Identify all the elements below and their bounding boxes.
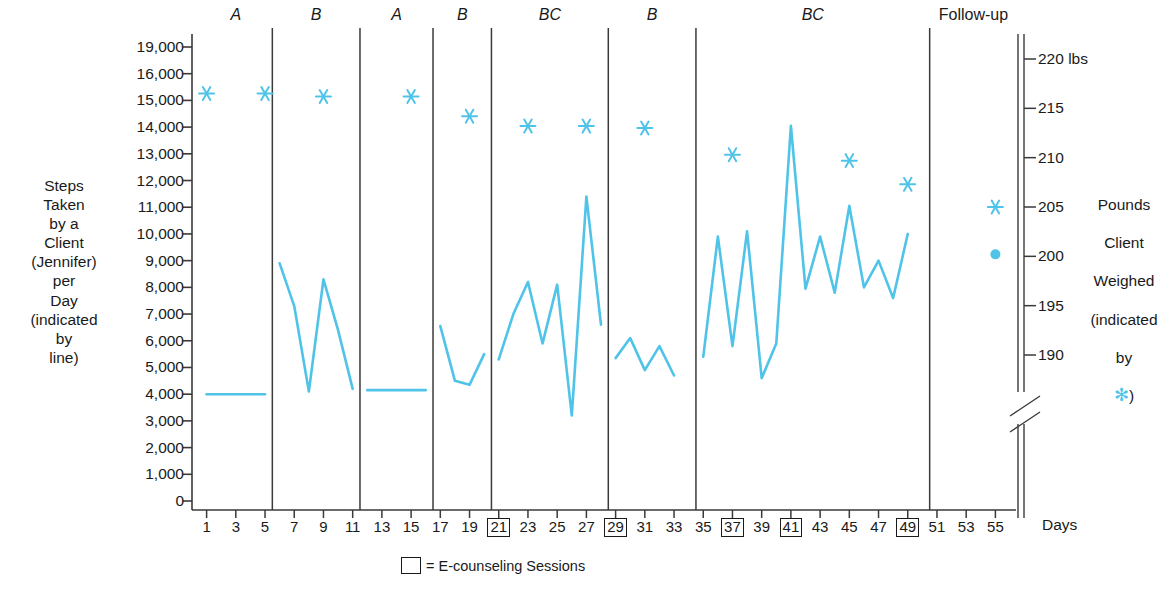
y2-axis-tick-label: 215 [1038,99,1064,117]
y-axis-tick-label: 11,000 [100,198,184,216]
x-axis-tick-label-ecounseling: 37 [716,518,748,537]
phase-label: Follow-up [913,6,1033,24]
phase-label: B [592,6,712,24]
right-axis-title-line4: (indicated [1090,311,1157,328]
x-axis-tick-label: 51 [921,518,953,535]
right-axis-title-close: ) [1129,387,1134,404]
chart-figure: Steps Taken by a Client (Jennifer) per D… [0,0,1176,591]
phase-label: BC [753,6,873,24]
ecounseling-session-marker: 49 [896,518,919,537]
y-axis-tick-label: 14,000 [100,118,184,136]
x-axis-name: Days [1042,516,1077,534]
steps-line-series [207,126,908,416]
ecounseling-session-marker: 37 [721,518,744,537]
y-axis-tick-label: 10,000 [100,225,184,243]
x-axis-tick-label: 45 [833,518,865,535]
x-axis-tick-label: 11 [337,518,369,535]
right-axis-title-line1: Pounds [1098,196,1151,213]
x-axis-tick-label: 1 [191,518,223,535]
asterisk-icon: ✻ [1114,385,1129,405]
y-axis-tick-label: 5,000 [100,358,184,376]
x-axis-tick-label-ecounseling: 21 [483,518,515,537]
y-axis-tick-label: 9,000 [100,252,184,270]
x-axis-tick-label: 7 [278,518,310,535]
ecounseling-box-icon [401,557,421,574]
y-axis-tick-label: 1,000 [100,465,184,483]
y2-axis-tick-label: 190 [1038,346,1064,364]
y2-axis-tick-label: 195 [1038,297,1064,315]
right-axis-title-line3: Weighed [1094,272,1155,289]
x-axis-tick-label-ecounseling: 41 [775,518,807,537]
y-axis-tick-label: 0 [100,492,184,510]
y-axis-tick-label: 16,000 [100,65,184,83]
phase-divider-lines [272,28,929,510]
ecounseling-session-marker: 41 [780,518,803,537]
x-axis-tick-label: 55 [979,518,1011,535]
weight-marker-series [199,87,1003,259]
y-axis-tick-label: 6,000 [100,332,184,350]
y-axis-tick-label: 19,000 [100,38,184,56]
y-axis-tick-label: 12,000 [100,172,184,190]
y-axis-tick-label: 13,000 [100,145,184,163]
x-axis-tick-label: 43 [804,518,836,535]
y-axis-tick-label: 3,000 [100,412,184,430]
x-axis-tick-label: 31 [629,518,661,535]
y2-axis-tick-label: 205 [1038,198,1064,216]
y2-axis-tick-label: 200 [1038,247,1064,265]
x-axis-tick-label: 39 [746,518,778,535]
x-axis-tick-label: 5 [249,518,281,535]
y2-axis-tick-label: 220 lbs [1038,50,1088,68]
x-axis-tick-label: 47 [863,518,895,535]
right-axis-title: Pounds Client Weighed (indicated by ✻) [1072,176,1176,405]
x-axis-tick-label: 15 [395,518,427,535]
x-axis-tick-label: 35 [687,518,719,535]
y-axis-tick-label: 2,000 [100,439,184,457]
y2-axis-tick-label: 210 [1038,149,1064,167]
x-axis-tick-label: 27 [570,518,602,535]
x-axis-tick-label: 3 [220,518,252,535]
y-axis-tick-label: 15,000 [100,91,184,109]
y-axis-tick-label: 4,000 [100,385,184,403]
y-axis-tick-label: 8,000 [100,278,184,296]
ecounseling-session-marker: 21 [487,518,510,537]
right-axis-title-line2: Client [1104,234,1144,251]
x-axis-tick-label: 33 [658,518,690,535]
x-axis-tick-label: 25 [541,518,573,535]
x-axis-tick-label: 53 [950,518,982,535]
x-axis-tick-label-ecounseling: 29 [600,518,632,537]
axis-lines [183,34,1040,518]
legend-text: = E-counseling Sessions [426,558,585,574]
y-axis-tick-label: 7,000 [100,305,184,323]
x-axis-tick-label: 23 [512,518,544,535]
legend: = E-counseling Sessions [401,557,585,574]
ecounseling-session-marker: 29 [604,518,627,537]
x-axis-tick-label: 13 [366,518,398,535]
x-axis-tick-label: 9 [307,518,339,535]
right-axis-title-line5: by [1116,349,1132,366]
x-axis-tick-label: 17 [424,518,456,535]
x-axis-tick-label-ecounseling: 49 [892,518,924,537]
x-axis-tick-label: 19 [454,518,486,535]
